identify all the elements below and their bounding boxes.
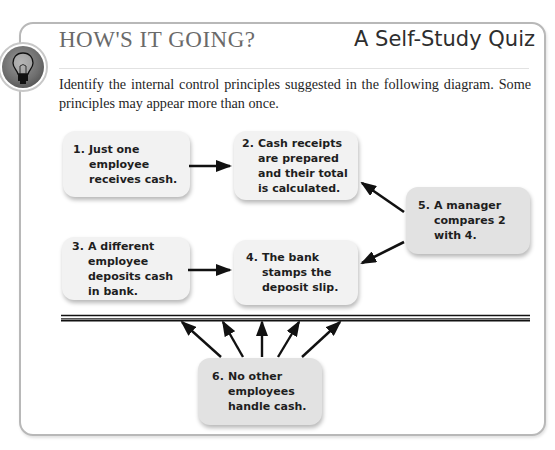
diagram-box-2: 2. Cash receipts are prepared and their … (234, 131, 358, 200)
box-text: A manager compares 2 with 4. (434, 198, 530, 243)
diagram-box-3: 3. A different employee deposits cash in… (62, 237, 190, 300)
box-number: 3. (72, 239, 88, 254)
box-number: 1. (73, 142, 89, 157)
diagram-box-6: 6. No other employees handle cash. (198, 358, 322, 425)
box-number: 6. (212, 369, 228, 384)
box-number: 4. (246, 250, 262, 265)
diagram-box-1: 1. Just one employee receives cash. (63, 131, 190, 197)
diagram-box-4: 4. The bank stamps the deposit slip. (234, 240, 358, 305)
box-text: Just one employee receives cash. (89, 142, 184, 187)
page-title: HOW'S IT GOING? (59, 27, 255, 53)
instructions-text: Identify the internal control principles… (59, 75, 531, 113)
diagram-box-5: 5. A manager compares 2 with 4. (406, 187, 530, 254)
quiz-subtitle: A Self-Study Quiz (354, 27, 535, 51)
box-number: 2. (242, 136, 258, 151)
box-number: 5. (418, 198, 434, 213)
box-text: A different employee deposits cash in ba… (88, 239, 188, 299)
lightbulb-icon (2, 46, 44, 88)
box-text: The bank stamps the deposit slip. (262, 250, 354, 295)
box-text: No other employees handle cash. (228, 369, 320, 414)
box-text: Cash receipts are prepared and their tot… (258, 136, 358, 196)
header-divider (59, 68, 529, 69)
